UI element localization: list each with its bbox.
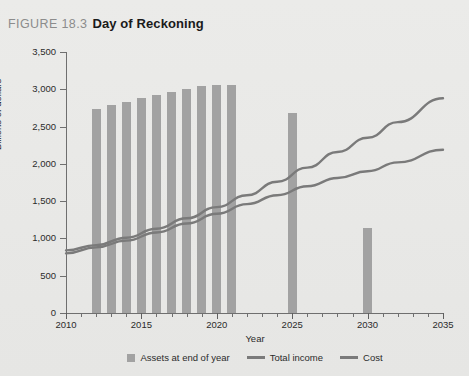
- y-axis-tick-label: 3,500: [4, 47, 56, 57]
- legend-swatch-line: [340, 356, 358, 359]
- bar: [122, 102, 131, 313]
- x-axis-minor-tick: [111, 313, 112, 317]
- x-axis-minor-tick: [413, 313, 414, 317]
- x-axis-minor-tick: [337, 313, 338, 317]
- bar: [212, 85, 221, 313]
- y-axis-tick-label: 1,000: [4, 233, 56, 243]
- bar: [92, 109, 101, 313]
- x-axis-minor-tick: [126, 313, 127, 317]
- y-axis-title: Billions of dollars: [0, 79, 3, 150]
- figure-title: Day of Reckoning: [92, 16, 203, 31]
- x-axis-minor-tick: [156, 313, 157, 317]
- x-axis-minor-tick: [172, 313, 173, 317]
- plot-area: [66, 52, 443, 313]
- bar: [152, 95, 161, 313]
- x-axis-minor-tick: [247, 313, 248, 317]
- legend-label: Assets at end of year: [140, 352, 229, 363]
- x-axis-minor-tick: [383, 313, 384, 317]
- y-axis-tick-label: 3,000: [4, 84, 56, 94]
- y-axis-tick: [60, 313, 66, 314]
- x-axis-tick-label: 2030: [348, 319, 388, 330]
- x-axis-minor-tick: [307, 313, 308, 317]
- bar: [363, 228, 372, 313]
- legend-label: Total income: [270, 352, 323, 363]
- bar: [137, 98, 146, 313]
- x-axis-minor-tick: [353, 313, 354, 317]
- legend-swatch-box: [127, 354, 135, 362]
- bar: [227, 85, 236, 313]
- x-axis-line: [66, 313, 444, 314]
- y-axis-tick-label: 2,000: [4, 159, 56, 169]
- y-axis-tick: [60, 238, 66, 239]
- chart-legend: Assets at end of yearTotal incomeCost: [66, 352, 444, 363]
- y-axis-tick: [60, 276, 66, 277]
- legend-swatch-line: [247, 356, 265, 359]
- legend-item[interactable]: Assets at end of year: [127, 352, 229, 363]
- x-axis-minor-tick: [322, 313, 323, 317]
- y-axis-tick-label: 500: [4, 271, 56, 281]
- x-axis-minor-tick: [187, 313, 188, 317]
- x-axis-minor-tick: [398, 313, 399, 317]
- x-axis-tick-label: 2035: [423, 319, 463, 330]
- x-axis-tick-label: 2010: [46, 319, 86, 330]
- x-axis-minor-tick: [202, 313, 203, 317]
- x-axis-tick-label: 2025: [272, 319, 312, 330]
- y-axis-tick: [60, 164, 66, 165]
- bar: [182, 89, 191, 313]
- x-axis-minor-tick: [232, 313, 233, 317]
- x-axis-tick-label: 2015: [121, 319, 161, 330]
- bar: [288, 113, 297, 313]
- x-axis-minor-tick: [428, 313, 429, 317]
- figure-container: FIGURE 18.3Day of Reckoning 05001,0001,5…: [0, 0, 469, 376]
- y-axis-tick-label: 1,500: [4, 196, 56, 206]
- bar: [167, 92, 176, 313]
- legend-item[interactable]: Total income: [247, 352, 323, 363]
- y-axis-tick-label: 2,500: [4, 122, 56, 132]
- legend-item[interactable]: Cost: [340, 352, 383, 363]
- y-axis-tick: [60, 89, 66, 90]
- x-axis-minor-tick: [277, 313, 278, 317]
- x-axis-title: Year: [66, 333, 444, 344]
- x-axis-tick-label: 2020: [197, 319, 237, 330]
- y-axis-tick: [60, 52, 66, 53]
- legend-label: Cost: [363, 352, 383, 363]
- x-axis-minor-tick: [81, 313, 82, 317]
- y-axis-tick-label: 0: [4, 308, 56, 318]
- x-axis-minor-tick: [262, 313, 263, 317]
- x-axis-minor-tick: [96, 313, 97, 317]
- bar: [197, 86, 206, 313]
- bar: [107, 105, 116, 313]
- y-axis-tick: [60, 127, 66, 128]
- y-axis-tick: [60, 201, 66, 202]
